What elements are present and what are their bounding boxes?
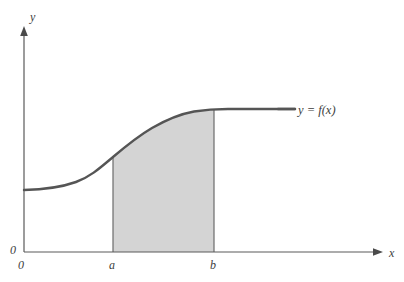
y-axis-arrow-icon: [20, 26, 28, 36]
shaded-area-region: [113, 110, 214, 252]
function-equation-label: y = f(x): [298, 104, 336, 117]
origin-label-x: 0: [18, 259, 24, 271]
y-axis-label: y: [30, 11, 35, 23]
origin-label-y: 0: [10, 244, 16, 256]
x-tick-label-b: b: [210, 259, 216, 271]
figure-container: y x 0 0 a b y = f(x): [0, 0, 404, 282]
x-tick-label-a: a: [109, 259, 115, 271]
x-axis-arrow-icon: [373, 248, 383, 256]
x-axis-label: x: [389, 247, 394, 259]
integral-area-diagram: [0, 0, 404, 282]
